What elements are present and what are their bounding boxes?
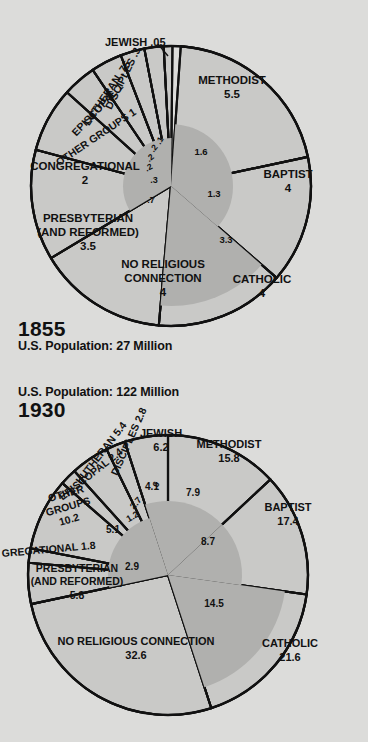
inner-value-presbyterian-1930: 2.9	[125, 561, 139, 572]
label-norel-line2-1855: CONNECTION	[124, 272, 201, 284]
label-baptist-1855: BAPTIST	[263, 168, 312, 180]
infographic-page: METHODIST5.5BAPTIST4CATHOLIC4NO RELIGIOU…	[0, 0, 368, 742]
label-norel-1930: NO RELIGIOUS CONNECTION	[57, 635, 214, 647]
value-catholic-1855: 4	[259, 287, 266, 299]
inner-value-presbyterian-1855: .7	[147, 195, 155, 205]
label-baptist-1930: BAPTIST	[264, 501, 311, 513]
label-norel-1855: NO RELIGIOUS	[121, 258, 205, 270]
population-label-1855: U.S. Population: 27 Million	[18, 340, 172, 353]
label-presbyterian-line2-1855: (AND REFORMED)	[37, 226, 139, 238]
value-methodist-1855: 5.5	[224, 88, 241, 100]
inner-value-catholic-1855: 3.3	[219, 234, 232, 245]
label-presbyterian-1855: PRESBYTERIAN	[43, 212, 133, 224]
value-norel-1855: 4	[160, 286, 167, 298]
value-presbyterian-1855: 3.5	[80, 240, 97, 252]
label-catholic-1855: CATHOLIC	[233, 273, 292, 285]
inner-value-baptist-1855: 1.3	[207, 188, 220, 199]
inner-value-congregational-1855: .3	[150, 175, 158, 185]
label-jewish-1930: JEWISH	[140, 427, 182, 439]
title-block-1855: 1855 U.S. Population: 27 Million	[18, 318, 172, 353]
value-catholic-1930: 21.6	[279, 651, 300, 663]
inner-value-baptist-1930: 8.7	[201, 536, 215, 547]
inner-value-methodist-1855: 1.6	[194, 146, 207, 157]
label-catholic-1930: CATHOLIC	[262, 637, 318, 649]
label-methodist-1855: METHODIST	[198, 74, 266, 86]
label-methodist-1930: METHODIST	[197, 438, 262, 450]
value-baptist-1855: 4	[285, 182, 292, 194]
value-methodist-1930: 15.8	[218, 452, 239, 464]
year-label-1855: 1855	[18, 318, 172, 340]
value-presbyterian-1930: 5.8	[70, 589, 85, 601]
label-presbyterian-line2-1930: (AND REFORMED)	[31, 575, 124, 587]
label-presbyterian-1930: PRESBYTERIAN	[36, 562, 118, 574]
inner-value-methodist-1930: 7.9	[186, 487, 200, 498]
title-block-1930: U.S. Population: 122 Million 1930	[18, 386, 179, 421]
value-baptist-1930: 17.4	[277, 515, 299, 527]
pie-chart-1855: METHODIST5.5BAPTIST4CATHOLIC4NO RELIGIOU…	[0, 0, 368, 742]
value-norel-1930: 32.6	[125, 649, 146, 661]
year-label-1930: 1930	[18, 399, 179, 421]
value-jewish-1930: 6.2	[153, 441, 168, 453]
label-congregational-1855: CONGREGATIONAL	[30, 160, 140, 172]
inner-value-catholic-1930: 14.5	[204, 598, 224, 609]
value-congregational-1855: 2	[82, 174, 88, 186]
inner-value-other-1930: 5.1	[106, 524, 120, 535]
label-jewish-1855: JEWISH .05	[105, 36, 166, 48]
